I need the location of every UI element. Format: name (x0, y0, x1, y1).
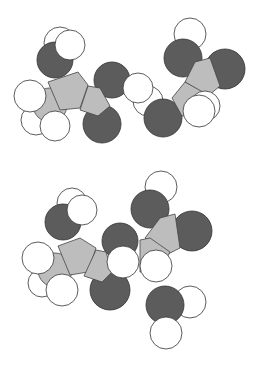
hydrogen-atom (14, 80, 46, 112)
hydrogen-atom (150, 317, 182, 349)
molecule-diagram (0, 0, 264, 373)
hydrogen-atom (46, 274, 78, 306)
hydrogen-atom (107, 246, 139, 278)
hydrogen-atom (183, 95, 215, 127)
hydrogen-atom (140, 250, 172, 282)
hydrogen-atom (40, 111, 70, 141)
hydrogen-atom (123, 73, 153, 103)
hydrogen-atom (67, 195, 97, 225)
water-molecule (146, 286, 206, 349)
hydrogen-atom (55, 30, 85, 60)
hydrogen-atom (22, 242, 54, 274)
top-molecule (14, 18, 245, 143)
